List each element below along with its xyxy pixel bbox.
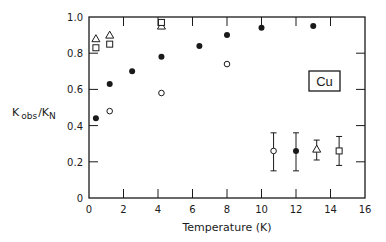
cu-annotation: Cu	[316, 74, 333, 89]
x-tick-label: 16	[359, 204, 372, 215]
filled-circle-marker	[310, 23, 316, 29]
open-triangle-marker	[106, 31, 114, 38]
open-square-marker	[93, 45, 99, 51]
x-tick-label: 6	[189, 204, 195, 215]
y-tick-label: 0.2	[67, 157, 83, 168]
open-square-marker	[158, 19, 164, 25]
filled-circle-marker	[129, 68, 135, 74]
open-circle-marker	[107, 108, 113, 114]
open-circle-marker	[271, 148, 277, 154]
open-square-marker	[336, 148, 342, 154]
filled-circle-marker	[259, 25, 265, 31]
y-tick-label: 0.6	[67, 84, 83, 95]
y-tick-label: 0.8	[67, 48, 83, 59]
filled-circle-marker	[93, 115, 99, 121]
x-tick-label: 12	[290, 204, 303, 215]
open-triangle-marker	[92, 35, 100, 42]
filled-circle-marker	[158, 54, 164, 60]
filled-circle-marker	[224, 32, 230, 38]
plot-frame	[89, 17, 365, 198]
data-markers	[92, 19, 342, 170]
plot-border	[89, 17, 365, 198]
x-tick-label: 2	[120, 204, 126, 215]
x-tick-label: 8	[224, 204, 230, 215]
x-tick-label: 4	[155, 204, 161, 215]
x-tick-label: 10	[255, 204, 268, 215]
cu-annotation-box: Cu	[309, 71, 340, 91]
x-tick-label: 0	[86, 204, 92, 215]
x-axis-label: Temperature (K)	[182, 221, 272, 234]
x-tick-label: 14	[324, 204, 337, 215]
y-axis-label: Kobs/KN	[12, 106, 56, 121]
open-circle-marker	[159, 90, 165, 96]
chart: 024681012141600.20.40.60.81.0 Cu Tempera…	[0, 0, 386, 242]
y-tick-label: 1.0	[67, 12, 83, 23]
open-triangle-marker	[313, 145, 321, 152]
open-square-marker	[107, 41, 113, 47]
filled-circle-marker	[293, 148, 299, 154]
filled-circle-marker	[196, 43, 202, 49]
axis-ticks	[89, 17, 365, 198]
filled-circle-marker	[107, 81, 113, 87]
open-circle-marker	[224, 61, 230, 67]
y-tick-label: 0	[77, 193, 83, 204]
y-tick-label: 0.4	[67, 121, 83, 132]
